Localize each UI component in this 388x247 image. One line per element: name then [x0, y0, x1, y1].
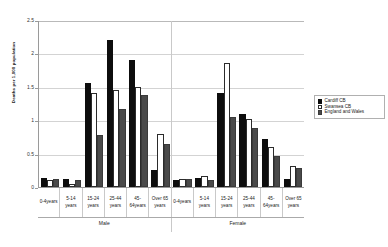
bar-group [105, 21, 127, 187]
bar [186, 179, 192, 187]
bar [97, 135, 103, 187]
bar-group [216, 21, 238, 187]
category-label: 15-24 years [216, 188, 238, 217]
bar-group [171, 21, 193, 187]
category-label: 0-4years [38, 188, 60, 217]
category-label: 5-14 years [194, 188, 216, 217]
legend-label: England and Wales [325, 110, 365, 115]
category-label: 0-4years [172, 188, 194, 217]
legend-label: Cardiff CB [325, 99, 346, 104]
bar-group [282, 21, 304, 187]
category-label: 5-14 years [60, 188, 82, 217]
bar [53, 179, 59, 187]
sex-group-label: Female [172, 218, 305, 232]
bar [296, 168, 302, 187]
sex-group-label: Male [38, 218, 172, 232]
bar [252, 128, 258, 187]
y-tick-label: 0.5 [12, 152, 34, 157]
bar-group [61, 21, 83, 187]
bar-group [238, 21, 260, 187]
legend-swatch-icon [318, 105, 323, 110]
legend-swatch-icon [318, 110, 323, 115]
y-tick-label: 2 [12, 51, 34, 56]
bar [119, 109, 125, 187]
chart-legend: Cardiff CBSwansea CBEngland and Wales [314, 95, 385, 119]
bar-group [260, 21, 282, 187]
bar-group [83, 21, 105, 187]
category-label: 15-24 years [83, 188, 105, 217]
bar [75, 180, 81, 187]
category-label: 45-64years [261, 188, 283, 217]
y-tick-label: 1 [12, 118, 34, 123]
y-tick-label: 1.5 [12, 85, 34, 90]
legend-swatch-icon [318, 99, 323, 104]
bar [274, 156, 280, 187]
category-label: 25-44 years [238, 188, 260, 217]
y-tick-label: 2.5 [12, 18, 34, 23]
bar [141, 95, 147, 187]
bar [164, 144, 170, 187]
category-label: 45-64years [127, 188, 149, 217]
bar [208, 180, 214, 187]
legend-item: England and Wales [318, 110, 383, 115]
category-axis: 0-4years5-14 years15-24 years25-44 years… [38, 188, 304, 218]
y-tick-label: 0 [12, 185, 34, 190]
category-label: 25-44 years [105, 188, 127, 217]
bar-group [39, 21, 61, 187]
sex-axis: MaleFemale [38, 218, 304, 232]
category-label: Over 65 years [149, 188, 171, 217]
legend-item: Cardiff CB [318, 99, 383, 104]
category-label: Over 65 years [283, 188, 304, 217]
bar-group [149, 21, 171, 187]
bar-group [127, 21, 149, 187]
bar-chart: Deaths per 1,000 population 00.511.522.5… [0, 0, 388, 247]
bar-group [194, 21, 216, 187]
bar [230, 117, 236, 187]
